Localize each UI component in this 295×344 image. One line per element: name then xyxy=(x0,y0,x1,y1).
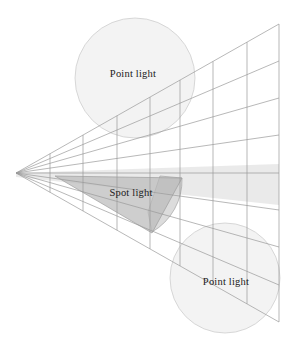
spot-light-cone xyxy=(55,176,182,233)
point-light-top-label: Point light xyxy=(110,68,156,79)
spot-light-group xyxy=(55,176,182,233)
frustum-scene-svg: Point light Spot light Point light xyxy=(0,0,295,344)
spot-light-label: Spot light xyxy=(109,187,152,198)
point-light-bottom-label: Point light xyxy=(203,276,249,287)
light-types-diagram: Point light Spot light Point light xyxy=(0,0,295,344)
